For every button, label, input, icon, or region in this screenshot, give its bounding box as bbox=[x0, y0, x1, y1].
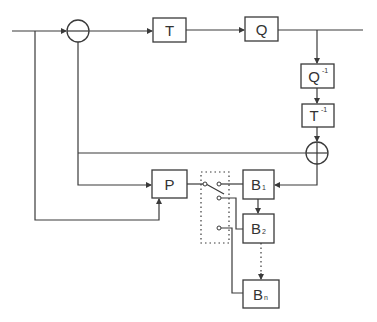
buffer-1-sub: 1 bbox=[262, 184, 266, 191]
buffer-2-sub: 2 bbox=[262, 228, 266, 235]
block-diagram: T Q Q -1 T -1 P bbox=[0, 0, 377, 322]
inverse-quantizer-block: Q -1 bbox=[301, 64, 334, 88]
transform-label: T bbox=[165, 22, 174, 39]
switch-contact-2 bbox=[217, 196, 221, 200]
buffer-n-label: B bbox=[253, 286, 263, 303]
inverse-transform-sup: -1 bbox=[321, 106, 327, 113]
switch-contact-1 bbox=[217, 182, 221, 186]
inverse-transform-block: T -1 bbox=[302, 104, 334, 127]
predictor-block: P bbox=[152, 170, 187, 198]
switch-arm bbox=[206, 184, 224, 194]
buffer-1-block: B 1 bbox=[243, 170, 274, 199]
signal-line bbox=[221, 228, 243, 293]
inverse-transform-label: T bbox=[309, 107, 318, 124]
predictor-label: P bbox=[164, 176, 174, 193]
selector-switch bbox=[203, 182, 224, 230]
quantizer-block: Q bbox=[245, 17, 278, 41]
inverse-quantizer-label: Q bbox=[308, 68, 320, 85]
transform-block: T bbox=[153, 18, 186, 42]
buffer-2-block: B 2 bbox=[243, 214, 274, 243]
buffer-2-label: B bbox=[251, 220, 261, 237]
signal-line bbox=[221, 198, 243, 229]
adder-node bbox=[306, 142, 328, 164]
buffer-n-sub: n bbox=[264, 294, 268, 301]
prediction-line bbox=[78, 42, 151, 185]
signal-line bbox=[275, 164, 317, 185]
switch-contact-3 bbox=[217, 226, 221, 230]
buffer-1-label: B bbox=[251, 176, 261, 193]
subtractor-node bbox=[67, 20, 89, 42]
buffer-n-block: B n bbox=[243, 280, 279, 308]
input-branch-line bbox=[35, 31, 159, 220]
switch-pivot bbox=[203, 182, 207, 186]
quantizer-label: Q bbox=[256, 21, 268, 38]
inverse-quantizer-sup: -1 bbox=[322, 67, 328, 74]
